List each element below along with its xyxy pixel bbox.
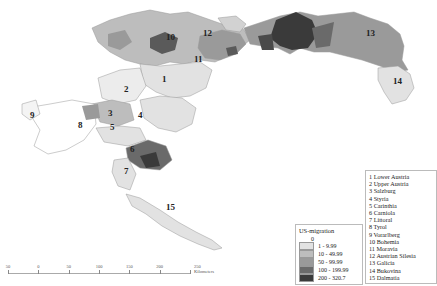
province-legend-item: 14 Bukovina <box>369 267 433 274</box>
color-legend-row: 100 - 199.99 <box>299 266 359 274</box>
region-label-6: 6 <box>130 144 135 154</box>
region-label-11: 11 <box>194 54 203 64</box>
color-swatch <box>299 274 314 282</box>
province-legend-item: 1 Lower Austria <box>369 173 433 180</box>
color-legend-label: 100 - 199.99 <box>318 267 349 273</box>
scale-tick <box>190 270 191 274</box>
scale-label: 200 <box>156 264 163 269</box>
region-upper-austria <box>98 68 146 104</box>
region-carinthia <box>96 126 146 146</box>
scale-label: 50 <box>6 264 11 269</box>
color-legend-row: 1 - 9.99 <box>299 242 359 250</box>
region-label-9: 9 <box>30 110 35 120</box>
scale-label: 150 <box>126 264 133 269</box>
province-legend-item: 11 Moravia <box>369 245 433 252</box>
region-label-1: 1 <box>162 74 167 84</box>
color-legend: US-migration 01 - 9.9910 - 49.9950 - 99.… <box>295 224 363 285</box>
region-galicia-dark2 <box>258 34 274 50</box>
province-legend: 1 Lower Austria2 Upper Austria3 Salzburg… <box>365 170 437 284</box>
province-legend-item: 4 Styria <box>369 195 433 202</box>
region-label-13: 13 <box>366 28 376 38</box>
province-legend-item: 10 Bohemia <box>369 238 433 245</box>
color-legend-row: 50 - 99.99 <box>299 258 359 266</box>
region-label-4: 4 <box>138 110 143 120</box>
color-legend-label: 50 - 99.99 <box>318 259 343 265</box>
region-label-2: 2 <box>124 84 129 94</box>
province-legend-item: 9 Vorarlberg <box>369 231 433 238</box>
region-label-15: 15 <box>166 202 176 212</box>
color-legend-label: 10 - 49.99 <box>318 251 343 257</box>
region-label-5: 5 <box>110 122 115 132</box>
scale-tick <box>129 270 130 274</box>
province-legend-item: 6 Carniola <box>369 209 433 216</box>
region-label-3: 3 <box>108 108 113 118</box>
province-legend-item: 2 Upper Austria <box>369 180 433 187</box>
scale-bar: 50050100150200250 Kilometers <box>8 264 218 280</box>
scale-tick <box>99 270 100 274</box>
color-legend-label: 0 <box>311 236 314 242</box>
color-swatch <box>299 258 314 266</box>
region-label-8: 8 <box>78 120 83 130</box>
scale-tick <box>38 270 39 274</box>
color-legend-label: 1 - 9.99 <box>318 243 337 249</box>
color-legend-row: 10 - 49.99 <box>299 250 359 258</box>
region-lower-austria <box>140 62 212 98</box>
region-label-10: 10 <box>166 32 176 42</box>
province-legend-item: 12 Austrian Silesia <box>369 252 433 259</box>
color-swatch <box>299 266 314 274</box>
province-legend-item: 8 Tyrol <box>369 223 433 230</box>
color-legend-row: 0 <box>299 235 359 242</box>
province-legend-item: 15 Dalmatia <box>369 274 433 281</box>
region-label-12: 12 <box>203 28 213 38</box>
region-label-14: 14 <box>393 76 403 86</box>
scale-tick <box>8 270 9 274</box>
province-legend-item: 5 Carinthia <box>369 202 433 209</box>
scale-label: 250 Kilometers <box>194 264 214 274</box>
scale-tick <box>69 270 70 274</box>
color-legend-row: 200 - 320.7 <box>299 274 359 282</box>
province-legend-item: 7 Littoral <box>369 216 433 223</box>
color-legend-label: 200 - 320.7 <box>318 275 346 281</box>
region-label-7: 7 <box>124 166 129 176</box>
color-legend-title: US-migration <box>299 227 359 234</box>
color-swatch <box>299 242 314 250</box>
color-swatch <box>299 250 314 258</box>
scale-label: 0 <box>37 264 39 269</box>
scale-tick <box>160 270 161 274</box>
scale-label: 50 <box>66 264 71 269</box>
region-styria <box>140 96 196 132</box>
scale-label: 100 <box>96 264 103 269</box>
province-legend-item: 13 Galicia <box>369 259 433 266</box>
province-legend-item: 3 Salzburg <box>369 187 433 194</box>
